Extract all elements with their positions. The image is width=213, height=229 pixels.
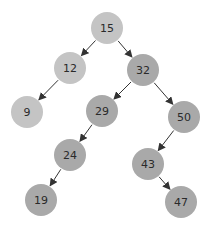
node-label: 19 [34, 194, 48, 207]
tree-node-9: 9 [11, 96, 43, 128]
edge-24-to-19 [50, 169, 61, 185]
edge-50-to-43 [158, 131, 173, 151]
tree-node-47: 47 [165, 186, 197, 218]
tree-node-32: 32 [127, 54, 159, 86]
node-label: 29 [95, 105, 109, 118]
edge-43-to-47 [159, 177, 170, 189]
tree-node-15: 15 [91, 12, 123, 44]
tree-node-12: 12 [54, 52, 86, 84]
tree-node-19: 19 [25, 184, 57, 216]
tree-node-29: 29 [86, 95, 118, 127]
tree-diagram: 1512329295024431947 [0, 0, 213, 229]
edge-15-to-32 [118, 41, 132, 57]
node-label: 12 [63, 62, 77, 75]
tree-node-50: 50 [168, 101, 200, 133]
edge-32-to-50 [154, 83, 173, 104]
node-label: 24 [63, 149, 77, 162]
node-label: 47 [174, 196, 188, 209]
edge-29-to-24 [80, 125, 92, 142]
node-label: 43 [141, 158, 155, 171]
nodes-group: 1512329295024431947 [11, 12, 200, 218]
tree-node-43: 43 [132, 148, 164, 180]
node-label: 15 [100, 22, 114, 35]
edge-12-to-9 [39, 80, 58, 100]
edge-15-to-12 [82, 41, 96, 56]
node-label: 50 [177, 111, 191, 124]
node-label: 9 [24, 106, 31, 119]
tree-node-24: 24 [54, 139, 86, 171]
node-label: 32 [136, 64, 150, 77]
edge-32-to-29 [114, 82, 131, 99]
